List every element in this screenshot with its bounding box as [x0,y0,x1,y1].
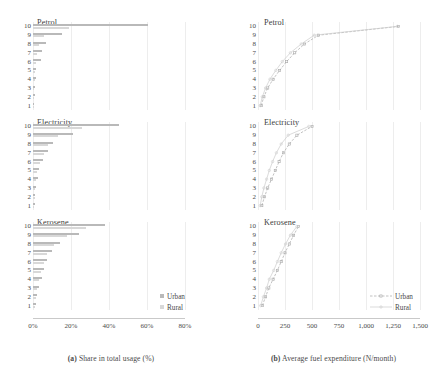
legend-label: Rural [167,304,183,312]
y-tick-label: 4 [242,76,256,83]
subpanel-petrol-bars: Petrol10987654321 [33,22,185,110]
y-tick-label: 7 [242,49,256,56]
y-tick-label: 6 [242,158,256,165]
legend-panel-b: UrbanRural [370,292,413,314]
y-tick-label: 3 [242,185,256,192]
y-tick-label: 4 [242,276,256,283]
x-tick-label: 20% [65,322,78,330]
caption-tag-b: (b) [271,354,281,363]
y-tick-label: 10 [242,123,256,130]
y-tick-label: 3 [17,185,31,192]
gridline [147,22,148,110]
gridline [420,122,421,210]
legend-item: Rural [370,303,413,314]
y-tick-label: 8 [17,141,31,148]
y-tick-label: 2 [242,193,256,200]
y-tick-label: 6 [17,58,31,65]
bar-rural [33,297,36,299]
x-tick-label: 60% [141,322,154,330]
subpanel-electricity-lines: Electricity10987654321 [258,122,420,210]
y-tick-label: 6 [17,158,31,165]
gridline [420,22,421,110]
y-tick-label: 1 [242,102,256,109]
y-tick-label: 10 [17,123,31,130]
line-urban [261,26,398,105]
y-tick-label: 5 [17,267,31,274]
bar-rural [33,35,44,37]
bar-rural [33,79,35,81]
x-tick-label: 250 [280,322,291,330]
y-tick-label: 10 [17,223,31,230]
y-tick-label: 1 [17,202,31,209]
caption-text-b: Average fuel expenditure (N/month) [282,354,396,363]
x-tick-label: 1,250 [385,322,401,330]
bar-rural [33,227,86,229]
gridline [71,22,72,110]
y-tick-label: 1 [242,302,256,309]
y-tick-label: 10 [17,23,31,30]
bar-rural [33,235,67,237]
gridline [71,122,72,210]
axis-line [258,318,420,319]
panel-a-share-in-total-usage: Petrol10987654321Electricity10987654321K… [0,0,222,381]
legend-swatch-icon [160,294,164,298]
gridline [420,222,421,310]
y-tick-label: 8 [242,241,256,248]
caption-panel-b: (b) Average fuel expenditure (N/month) [222,354,445,363]
bar-rural [33,262,44,264]
y-tick-label: 8 [17,241,31,248]
y-tick-label: 4 [17,76,31,83]
y-tick-label: 9 [17,132,31,139]
bar-rural [33,27,69,29]
bar-rural [33,135,58,137]
line-rural [260,26,397,105]
subpanel-electricity-bars: Electricity10987654321 [33,122,185,210]
y-tick-label: 5 [17,67,31,74]
y-tick-label: 2 [242,93,256,100]
bar-rural [33,279,39,281]
y-tick-label: 9 [17,232,31,239]
bar-rural [33,188,35,190]
bar-rural [33,71,35,73]
y-tick-label: 7 [242,149,256,156]
legend-item: Urban [160,292,185,303]
caption-text-a: Share in total usage (%) [79,354,154,363]
axis-line [33,318,185,319]
gridline [185,222,186,310]
y-tick-label: 5 [242,167,256,174]
x-tick-label: 40% [103,322,116,330]
x-tick-label: 1,000 [358,322,374,330]
caption-tag-a: (a) [68,354,77,363]
bar-rural [33,153,44,155]
y-tick-label: 6 [242,258,256,265]
y-tick-label: 8 [242,41,256,48]
y-tick-label: 3 [242,85,256,92]
line-rural [260,126,309,205]
gridline [147,222,148,310]
y-tick-label: 9 [242,232,256,239]
line-series-group [258,122,420,210]
x-tick-label: 0% [28,322,37,330]
bar-rural [33,53,37,55]
gridline [71,222,72,310]
y-tick-label: 4 [17,176,31,183]
y-tick-label: 1 [17,102,31,109]
y-tick-label: 8 [17,41,31,48]
x-tick-label: 0 [256,322,260,330]
gridline [109,222,110,310]
y-tick-label: 4 [17,276,31,283]
bar-rural [33,244,54,246]
y-tick-label: 5 [242,67,256,74]
bar-rural [33,144,48,146]
bar-rural [33,44,39,46]
y-tick-label: 3 [242,285,256,292]
bar-rural [33,162,40,164]
legend-item: Urban [370,292,413,303]
y-tick-label: 7 [242,249,256,256]
y-tick-label: 2 [17,293,31,300]
y-tick-label: 1 [242,202,256,209]
bar-rural [33,179,36,181]
y-tick-label: 2 [17,93,31,100]
y-tick-label: 5 [242,267,256,274]
y-tick-label: 2 [242,293,256,300]
